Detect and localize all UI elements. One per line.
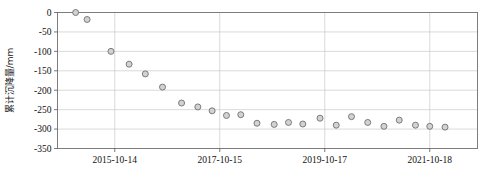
- data-point: [142, 71, 148, 77]
- data-point: [286, 119, 292, 125]
- data-point: [271, 121, 277, 127]
- data-point: [223, 112, 229, 118]
- data-point: [381, 123, 387, 129]
- data-point: [412, 122, 418, 128]
- data-point: [333, 122, 339, 128]
- data-point: [209, 108, 215, 114]
- data-point: [179, 100, 185, 106]
- y-tick-label: -250: [34, 105, 52, 115]
- data-point: [427, 123, 433, 129]
- data-point: [300, 121, 306, 127]
- data-points-group: [73, 10, 448, 131]
- data-point: [238, 112, 244, 118]
- data-point: [73, 10, 79, 16]
- data-point: [195, 104, 201, 110]
- y-tickmarks-group: [54, 13, 58, 149]
- y-tick-label: -350: [34, 144, 52, 154]
- y-tick-label: -50: [39, 27, 52, 37]
- y-tick-label: -300: [34, 124, 52, 134]
- scatter-plot-svg: 0-50-100-150-200-250-300-350 2015-10-142…: [0, 0, 491, 183]
- x-tick-labels-group: 2015-10-142017-10-152019-10-172021-10-18: [93, 155, 453, 165]
- y-tick-labels-group: 0-50-100-150-200-250-300-350: [34, 8, 52, 154]
- x-tick-label: 2015-10-14: [93, 155, 138, 165]
- data-point: [254, 120, 260, 126]
- x-tick-label: 2017-10-15: [198, 155, 243, 165]
- data-point: [84, 16, 90, 22]
- plot-area-wrapper: 0-50-100-150-200-250-300-350 2015-10-142…: [0, 0, 491, 183]
- x-tick-label: 2021-10-18: [408, 155, 453, 165]
- data-point: [442, 124, 448, 130]
- data-point: [365, 119, 371, 125]
- data-point: [160, 84, 166, 90]
- y-tick-label: -150: [34, 66, 52, 76]
- data-point: [396, 117, 402, 123]
- settlement-chart-figure: 累计沉降量/mm 0-50-100-150-200-250-300-350 20…: [0, 0, 491, 183]
- y-tick-label: -200: [34, 86, 52, 96]
- x-tick-label: 2019-10-17: [303, 155, 348, 165]
- data-point: [126, 61, 132, 67]
- x-tickmarks-group: [115, 149, 430, 153]
- y-tick-label: -100: [34, 47, 52, 57]
- data-point: [108, 48, 114, 54]
- y-tick-label: 0: [47, 8, 52, 18]
- data-point: [349, 114, 355, 120]
- data-point: [317, 115, 323, 121]
